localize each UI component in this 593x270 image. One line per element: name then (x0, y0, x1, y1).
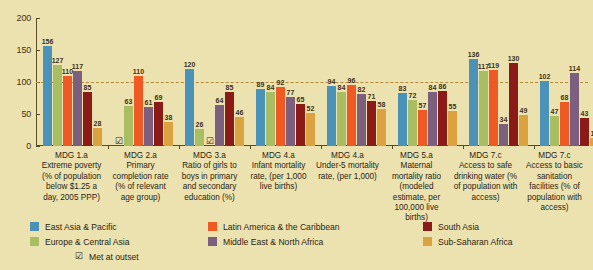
bar-value-label: 61 (145, 99, 153, 106)
bar-value-label: 38 (165, 114, 173, 121)
bar-slot-1-4: 69 (154, 18, 163, 146)
bar-0-4[interactable]: 85 (83, 92, 92, 146)
bar-6-3[interactable]: 34 (499, 124, 508, 146)
bar-value-label: 69 (155, 94, 163, 101)
bar-1-2[interactable]: 110 (134, 76, 143, 146)
bar-7-3[interactable]: 114 (570, 73, 579, 146)
category-text: Access to safe drinking water (% of popu… (454, 161, 518, 201)
bar-2-0[interactable]: 120 (185, 69, 194, 146)
bar-5-3[interactable]: 84 (428, 92, 437, 146)
bar-2-4[interactable]: 85 (225, 92, 234, 146)
category-text: Under-5 mortality rate, (per 1,000) (316, 161, 379, 180)
legend-label: Latin America & the Caribbean (223, 222, 340, 232)
bar-0-5[interactable]: 28 (93, 128, 102, 146)
bar-group-3: 898492776552 (250, 18, 321, 146)
bar-slot-7-1: 47 (550, 18, 559, 146)
bar-3-5[interactable]: 52 (306, 113, 315, 146)
bar-slot-6-1: 117 (479, 18, 488, 146)
legend-item-0[interactable]: East Asia & Pacific (30, 222, 208, 232)
bar-1-4[interactable]: 69 (154, 102, 163, 146)
bar-3-4[interactable]: 65 (296, 104, 305, 146)
bar-0-2[interactable]: 110 (63, 76, 72, 146)
legend-label: South Asia (438, 222, 479, 232)
bar-value-label: 136 (468, 51, 480, 58)
legend-label: Sub-Saharan Africa (438, 237, 513, 247)
bar-2-1[interactable]: 26 (195, 129, 204, 146)
category-text: Access to basic sanitation facilities (%… (526, 161, 583, 212)
bar-5-4[interactable]: 86 (438, 91, 447, 146)
bar-7-1[interactable]: 47 (550, 116, 559, 146)
bar-value-label: 77 (287, 89, 295, 96)
bar-5-1[interactable]: 72 (408, 100, 417, 146)
category-label-6: MDG 7.cAccess to safe drinking water (% … (451, 151, 520, 224)
bar-6-0[interactable]: 136 (469, 59, 478, 146)
bar-slot-6-3: 34 (499, 18, 508, 146)
bar-6-1[interactable]: 117 (479, 71, 488, 146)
bar-value-label: 85 (84, 84, 92, 91)
bar-4-1[interactable]: 84 (337, 92, 346, 146)
bar-6-5[interactable]: 49 (519, 115, 528, 146)
bar-slot-3-2: 92 (276, 18, 285, 146)
bar-4-4[interactable]: 71 (367, 101, 376, 146)
bar-slot-2-0: 120 (185, 18, 194, 146)
bar-0-1[interactable]: 127 (53, 65, 62, 146)
bar-value-label: 102 (539, 73, 551, 80)
bar-value-label: 114 (569, 65, 580, 72)
bar-5-2[interactable]: 57 (418, 110, 427, 146)
bar-slot-3-4: 65 (296, 18, 305, 146)
bar-2-3[interactable]: 64 (215, 105, 224, 146)
bar-3-3[interactable]: 77 (286, 97, 295, 146)
bar-5-0[interactable]: 83 (398, 93, 407, 146)
legend-item-5[interactable]: Sub-Saharan Africa (423, 237, 593, 247)
y-axis-tick-0: 0 (26, 141, 36, 151)
legend-label: Europe & Central Asia (45, 237, 130, 247)
bar-slot-0-0: 156 (43, 18, 52, 146)
bar-3-0[interactable]: 89 (256, 89, 265, 146)
bar-slot-5-2: 57 (418, 18, 427, 146)
category-code: MDG 4.a (315, 151, 380, 161)
legend-item-3[interactable]: Europe & Central Asia (30, 237, 208, 247)
bar-group-5: 837257848655 (392, 18, 463, 146)
bar-slot-0-4: 85 (83, 18, 92, 146)
bar-slot-6-2: 119 (489, 18, 498, 146)
category-code: MDG 7.c (522, 151, 587, 161)
bar-7-0[interactable]: 102 (540, 81, 549, 146)
legend-item-4[interactable]: Middle East & North Africa (208, 237, 423, 247)
bar-value-label: 34 (500, 116, 508, 123)
bar-slot-4-1: 84 (337, 18, 346, 146)
bar-3-1[interactable]: 84 (266, 92, 275, 146)
bar-4-2[interactable]: 96 (347, 85, 356, 146)
bar-6-4[interactable]: 130 (509, 63, 518, 146)
legend-item-1[interactable]: Latin America & the Caribbean (208, 222, 423, 232)
bar-1-3[interactable]: 61 (144, 107, 153, 146)
bar-slot-3-3: 77 (286, 18, 295, 146)
bar-1-1[interactable]: 63 (124, 106, 133, 146)
bar-4-3[interactable]: 82 (357, 94, 366, 146)
bar-4-0[interactable]: 94 (327, 86, 336, 146)
bar-slot-4-4: 71 (367, 18, 376, 146)
bar-0-3[interactable]: 117 (73, 71, 82, 146)
bar-0-0[interactable]: 156 (43, 46, 52, 146)
bar-slot-2-3: 64 (215, 18, 224, 146)
bar-group-2: 12026☑648546 (179, 18, 250, 146)
bar-4-5[interactable]: 58 (377, 109, 386, 146)
bar-3-2[interactable]: 92 (276, 87, 285, 146)
bar-slot-0-1: 127 (53, 18, 62, 146)
bar-group-7: 10247681144313 (534, 18, 593, 146)
bar-2-5[interactable]: 46 (235, 117, 244, 146)
bar-5-5[interactable]: 55 (448, 111, 457, 146)
bar-7-2[interactable]: 68 (560, 102, 569, 146)
plot-area: 200150100500 1561271101178528☑6311061693… (36, 18, 588, 146)
category-label-0: MDG 1.aExtreme poverty (% of population … (37, 151, 106, 224)
bar-1-5[interactable]: 38 (164, 122, 173, 146)
legend-label: East Asia & Pacific (45, 222, 117, 232)
bar-slot-0-5: 28 (93, 18, 102, 146)
legend-item-2[interactable]: South Asia (423, 222, 593, 232)
met-at-outset-icon: ☑ (115, 137, 123, 146)
bar-7-4[interactable]: 43 (580, 118, 589, 146)
bar-value-label: 43 (581, 110, 589, 117)
category-label-4: MDG 4.aUnder-5 mortality rate, (per 1,00… (313, 151, 382, 224)
bar-value-label: 130 (508, 55, 520, 62)
bar-6-2[interactable]: 119 (489, 70, 498, 146)
legend-met-label: Met at outset (89, 252, 139, 262)
